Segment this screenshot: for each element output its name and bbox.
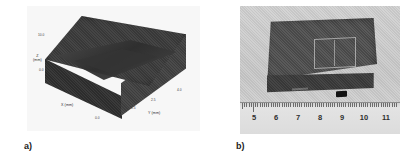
panel-a-surface-plot: Z (mm) X (mm) Y (mm) 10.0 0.0 0.0 1.5 2.… — [27, 6, 200, 131]
ruler-label-11: 11 — [382, 113, 390, 122]
ruler-label-9: 9 — [340, 113, 344, 122]
panel-a-caption: a) — [24, 141, 32, 151]
ruler-label-6: 6 — [274, 113, 278, 122]
ruler-tick-marks — [240, 103, 400, 112]
axis-tick-y-1: 1.5 — [131, 106, 135, 110]
axis-tick-x-0: 0.0 — [95, 116, 99, 120]
sample-notch — [336, 91, 347, 98]
axis-label-z-name: Z — [36, 54, 38, 58]
sample-block — [264, 18, 377, 100]
ruler-label-7: 7 — [296, 113, 300, 122]
axis-label-z: Z (mm) — [33, 54, 42, 63]
ruler: 567891011 — [240, 102, 400, 134]
axis-tick-y-3: 4.0 — [177, 88, 181, 92]
ruler-label-8: 8 — [318, 113, 322, 122]
ruler-label-5: 5 — [252, 113, 256, 122]
etched-square-region — [314, 37, 356, 69]
axis-label-z-unit: (mm) — [33, 58, 42, 62]
panel-b-photograph: 567891011 — [240, 6, 400, 134]
ruler-number-labels: 567891011 — [240, 113, 400, 125]
axis-label-y: Y (mm) — [148, 111, 160, 115]
two-panel-figure: Z (mm) X (mm) Y (mm) 10.0 0.0 0.0 1.5 2.… — [0, 0, 416, 166]
panel-b-caption: b) — [236, 141, 245, 151]
axis-tick-y-2: 2.5 — [151, 98, 155, 102]
axis-label-x: X (mm) — [61, 103, 73, 107]
ruler-label-10: 10 — [360, 113, 368, 122]
etched-divider-line — [334, 40, 335, 66]
axis-tick-z-max: 10.0 — [38, 33, 44, 37]
axis-tick-z-min: 0.0 — [39, 68, 43, 72]
sample-front-face — [267, 73, 377, 97]
